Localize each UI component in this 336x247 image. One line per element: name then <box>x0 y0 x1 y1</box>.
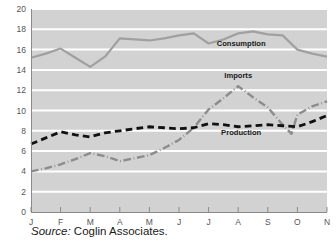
y-axis-tick-label: 6 <box>21 146 26 156</box>
series-label-imports: Imports <box>224 71 252 80</box>
source-note: Source: Coglin Associates. <box>31 225 168 237</box>
x-axis-tick-label: O <box>294 217 301 227</box>
chart-figure: 02468101214161820 JFMAMJJASON Consumptio… <box>0 0 336 247</box>
source-value: Coglin Associates. <box>74 225 168 237</box>
y-axis-tick-label: 4 <box>21 166 26 176</box>
x-axis-tick-label: J <box>177 217 181 227</box>
y-axis-tick-label: 14 <box>17 65 27 75</box>
y-axis-tick-label: 20 <box>17 4 27 14</box>
series-label-consumption: Consumption <box>217 39 266 48</box>
y-axis-tick-label: 16 <box>17 45 27 55</box>
y-axis-tick-label: 2 <box>21 187 26 197</box>
y-axis-tick-label: 12 <box>17 85 27 95</box>
x-axis-tick-label: A <box>235 217 241 227</box>
x-axis-tick-label: J <box>206 217 210 227</box>
x-axis-tick-label: N <box>324 217 330 227</box>
series-label-production: Production <box>221 128 261 137</box>
y-axis-tick-labels: 02468101214161820 <box>17 4 27 217</box>
source-label: Source: <box>31 225 71 237</box>
y-axis-tick-label: 8 <box>21 126 26 136</box>
line-chart: 02468101214161820 JFMAMJJASON Consumptio… <box>0 0 336 247</box>
y-axis-tick-label: 10 <box>17 106 27 116</box>
y-axis-tick-label: 18 <box>17 24 27 34</box>
x-axis-tick-label: S <box>265 217 271 227</box>
y-axis-tick-label: 0 <box>21 207 26 217</box>
